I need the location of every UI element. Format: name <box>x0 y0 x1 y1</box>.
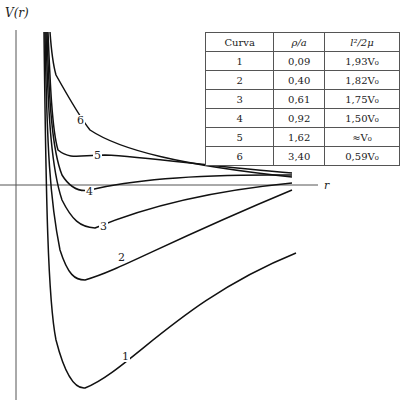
y-axis-label: V(r) <box>5 6 29 20</box>
cell-curve: 2 <box>206 71 274 90</box>
curve-label-4: 4 <box>85 186 94 197</box>
table-row: 3 0,61 1,75V₀ <box>206 90 400 109</box>
header-curva: Curva <box>206 33 274 52</box>
x-axis-label: r <box>324 179 329 192</box>
cell-curve: 5 <box>206 128 274 147</box>
cell-curve: 4 <box>206 109 274 128</box>
cell-l: 1,75V₀ <box>324 90 399 109</box>
cell-rho: 3,40 <box>274 147 325 166</box>
cell-rho: 0,09 <box>274 52 325 71</box>
table-row: 2 0,40 1,82V₀ <box>206 71 400 90</box>
header-l: l²/2μ <box>324 33 399 52</box>
cell-rho: 1,62 <box>274 128 325 147</box>
cell-l: 1,93V₀ <box>324 52 399 71</box>
cell-l: 1,50V₀ <box>324 109 399 128</box>
cell-curve: 1 <box>206 52 274 71</box>
table-row: 5 1,62 ≈V₀ <box>206 128 400 147</box>
cell-curve: 6 <box>206 147 274 166</box>
curve-label-1: 1 <box>121 351 130 362</box>
cell-rho: 0,61 <box>274 90 325 109</box>
table-header-row: Curva ρ/a l²/2μ <box>206 33 400 52</box>
curve-label-3: 3 <box>99 221 108 232</box>
table-row: 4 0,92 1,50V₀ <box>206 109 400 128</box>
curve-label-5: 5 <box>93 150 102 161</box>
cell-rho: 0,92 <box>274 109 325 128</box>
table-row: 6 3,40 0,59V₀ <box>206 147 400 166</box>
table-row: 1 0,09 1,93V₀ <box>206 52 400 71</box>
curve-label-6: 6 <box>76 115 85 126</box>
cell-l: ≈V₀ <box>324 128 399 147</box>
cell-l: 0,59V₀ <box>324 147 399 166</box>
cell-curve: 3 <box>206 90 274 109</box>
parameter-table: Curva ρ/a l²/2μ 1 0,09 1,93V₀ 2 0,40 1,8… <box>205 32 400 166</box>
cell-rho: 0,40 <box>274 71 325 90</box>
curve-label-2: 2 <box>117 252 126 263</box>
header-rho: ρ/a <box>274 33 325 52</box>
cell-l: 1,82V₀ <box>324 71 399 90</box>
